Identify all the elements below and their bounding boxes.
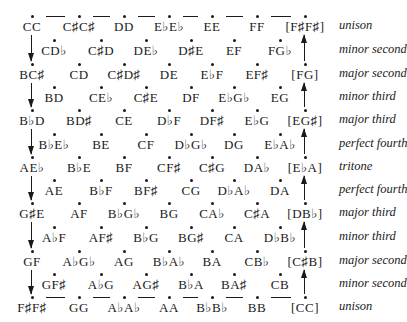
- interval-label: major third: [339, 205, 396, 219]
- dyad-cell: CA: [224, 231, 243, 245]
- dyad-cell: CD♭: [41, 44, 67, 58]
- dot-marker: [100, 39, 103, 42]
- dot-marker: [145, 133, 148, 136]
- interval-label: major third: [339, 112, 396, 126]
- dot-marker: [304, 202, 307, 205]
- dyad-cell: AG: [114, 255, 134, 269]
- dyad-cell: G♯E: [19, 207, 44, 221]
- dot-marker: [168, 250, 171, 253]
- dot-marker: [53, 273, 56, 276]
- dyad-cell: CB: [271, 278, 289, 292]
- dot-marker: [256, 250, 259, 253]
- dot-marker: [211, 202, 214, 205]
- dot-marker: [233, 179, 236, 182]
- dot-marker: [211, 250, 214, 253]
- dyad-cell: D♭F: [157, 114, 181, 128]
- dot-marker: [211, 156, 214, 159]
- dyad-cell: [C♯B]: [288, 255, 323, 269]
- dot-marker: [123, 202, 126, 205]
- interval-label: perfect fourth: [339, 136, 407, 150]
- dyad-cell: C♯C♯: [63, 20, 95, 34]
- interval-label: unison: [339, 299, 372, 313]
- dyad-cell: EF♯: [245, 68, 268, 82]
- dyad-cell: BG: [159, 207, 178, 221]
- dyad-cell: EE: [204, 20, 221, 34]
- dot-marker: [233, 273, 236, 276]
- dot-marker: [168, 15, 171, 18]
- dot-marker: [279, 273, 282, 276]
- dyad-cell: CA♭: [199, 207, 225, 221]
- dot-marker: [256, 296, 259, 299]
- dyad-cell: [F♯F♯]: [285, 20, 324, 34]
- dyad-cell: D♯E: [178, 44, 203, 58]
- dyad-cell: E♭E♭: [154, 20, 184, 34]
- dyad-cell: B♭B♭: [196, 301, 228, 315]
- connector-line: [271, 16, 291, 17]
- dyad-cell: DG: [224, 138, 244, 152]
- dot-marker: [233, 226, 236, 229]
- dyad-cell: AA: [159, 301, 179, 315]
- dot-marker: [78, 202, 81, 205]
- dot-marker: [279, 179, 282, 182]
- dot-marker: [190, 39, 193, 42]
- dot-marker: [100, 179, 103, 182]
- dyad-cell: EF: [226, 44, 242, 58]
- dot-marker: [190, 86, 193, 89]
- dot-marker: [190, 179, 193, 182]
- dyad-cell: B♭E♭: [39, 138, 70, 152]
- connector-line: [138, 16, 155, 17]
- arrow-up-icon: [304, 270, 305, 294]
- dyad-cell: CC: [23, 20, 41, 34]
- dyad-cell: B♭A: [178, 278, 204, 292]
- dot-marker: [31, 202, 34, 205]
- interval-label: minor third: [339, 229, 396, 243]
- dot-marker: [53, 226, 56, 229]
- arrow-down-icon: [31, 176, 32, 200]
- dyad-cell: DA: [270, 184, 290, 198]
- dyad-cell: B♭G: [133, 231, 159, 245]
- dyad-cell: FF: [249, 20, 264, 34]
- dyad-cell: EG: [271, 91, 289, 105]
- dyad-cell: A♭A♭: [107, 301, 140, 315]
- dyad-cell: [CC]: [291, 301, 319, 315]
- dot-marker: [123, 63, 126, 66]
- dot-marker: [168, 296, 171, 299]
- dyad-cell: DD: [114, 20, 134, 34]
- dot-marker: [123, 15, 126, 18]
- dot-marker: [233, 86, 236, 89]
- dot-marker: [279, 39, 282, 42]
- dyad-cell: C♯D♯: [107, 68, 140, 82]
- dot-marker: [100, 86, 103, 89]
- dyad-cell: D♭B♭: [264, 231, 296, 245]
- dyad-cell: AG♯: [133, 278, 160, 292]
- dyad-cell: E♭G♭: [218, 91, 250, 105]
- dyad-cell: CF♯: [157, 161, 181, 175]
- dyad-cell: BC♯: [19, 68, 44, 82]
- dot-marker: [145, 86, 148, 89]
- dot-marker: [256, 15, 259, 18]
- dyad-cell: GG: [69, 301, 89, 315]
- dot-marker: [304, 109, 307, 112]
- dot-marker: [256, 109, 259, 112]
- dot-marker: [233, 39, 236, 42]
- dot-marker: [304, 296, 307, 299]
- arrow-up-icon: [304, 83, 305, 107]
- dyad-cell: FG♭: [268, 44, 292, 58]
- arrow-down-icon: [31, 35, 32, 61]
- dyad-cell: E♭G: [245, 114, 270, 128]
- dot-marker: [211, 63, 214, 66]
- dyad-cell: AE♭: [20, 161, 45, 175]
- dot-marker: [304, 156, 307, 159]
- dyad-cell: B♭A♭: [153, 255, 185, 269]
- dyad-cell: CG: [181, 184, 200, 198]
- dot-marker: [256, 156, 259, 159]
- arrow-down-icon: [31, 83, 32, 107]
- dot-marker: [31, 296, 34, 299]
- dyad-cell: BB: [248, 301, 266, 315]
- dyad-cell: B♭F: [89, 184, 113, 198]
- interval-label: tritone: [339, 159, 372, 173]
- dot-marker: [53, 86, 56, 89]
- interval-label: unison: [339, 18, 372, 32]
- dot-marker: [31, 15, 34, 18]
- connector-line: [93, 297, 110, 298]
